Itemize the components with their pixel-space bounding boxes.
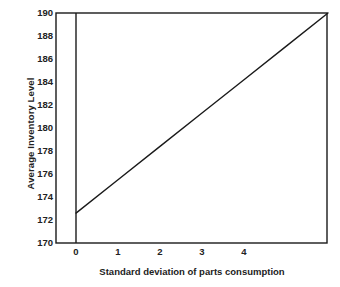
data-line-series-0: [76, 13, 328, 213]
chart-figure: Average Inventory Level Standard deviati…: [0, 0, 340, 287]
plot-area: [0, 0, 340, 287]
plot-frame: [56, 13, 327, 243]
